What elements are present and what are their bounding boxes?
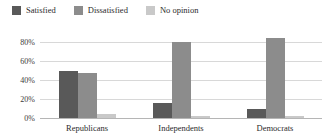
x-axis-category-label: Republicans [66,123,108,133]
chart-legend: Satisfied Dissatisfied No opinion [12,3,216,17]
bar [59,71,78,119]
legend-swatch-satisfied [12,6,21,15]
legend-item-dissatisfied: Dissatisfied [74,6,128,15]
y-axis-tick-label: 0% [24,114,35,123]
bar-group-bars [228,42,322,118]
bar [191,116,210,118]
legend-swatch-no-opinion [146,6,155,15]
x-axis-category-label: Independents [158,123,203,133]
bar [285,116,304,118]
legend-label-satisfied: Satisfied [26,6,56,15]
bar [78,73,97,118]
y-axis-tick-label: 40% [20,76,35,85]
legend-item-satisfied: Satisfied [12,6,56,15]
bar-group: Republicans [40,42,134,118]
bar-group: Democrats [228,42,322,118]
bar-group-bars [40,42,134,118]
legend-swatch-dissatisfied [74,6,83,15]
y-axis-tick-label: 80% [20,38,35,47]
bar [97,114,116,118]
bar-group: Independents [134,42,228,118]
bar [172,42,191,118]
y-axis-tick-label: 20% [20,95,35,104]
y-axis-tick-label: 60% [20,57,35,66]
legend-item-no-opinion: No opinion [146,6,199,15]
bar [153,103,172,118]
plot-area: 0%20%40%60%80%RepublicansIndependentsDem… [40,42,322,118]
bar [247,109,266,118]
legend-label-dissatisfied: Dissatisfied [88,6,128,15]
legend-label-no-opinion: No opinion [160,6,199,15]
bar [266,38,285,118]
bar-chart: Satisfied Dissatisfied No opinion 0%20%4… [0,0,330,135]
x-axis-line [40,118,322,119]
x-axis-category-label: Democrats [257,123,294,133]
bar-group-bars [134,42,228,118]
